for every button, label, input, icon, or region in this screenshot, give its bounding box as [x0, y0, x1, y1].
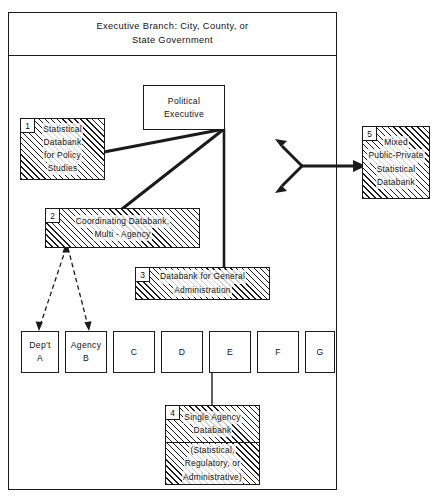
agency-g-label: G	[317, 346, 324, 359]
databank-4-line4: Regulatory, or	[184, 457, 241, 470]
databank-5-line1: Mixed	[383, 136, 409, 149]
databank-5-number: 5	[362, 126, 377, 141]
agency-box-a[interactable]: Dep't A	[21, 331, 59, 373]
databank-4-number: 4	[165, 405, 180, 420]
databank-4-label-bottom: (Statistical, Regulatory, or Administrat…	[166, 442, 259, 485]
databank-3-box[interactable]: 3 Databank for General Administration	[135, 267, 270, 300]
databank-4-line2: Databank	[193, 424, 233, 437]
databank-1-box[interactable]: 1 Statistical Databank for Policy Studie…	[20, 118, 105, 180]
political-executive-box[interactable]: Political Executive	[143, 85, 225, 130]
databank-3-line1: Databank for General	[159, 270, 246, 283]
databank-1-line1: Statistical	[42, 123, 83, 136]
databank-2-number: 2	[45, 208, 60, 223]
agency-c-label: C	[131, 346, 138, 359]
databank-1-line2: Databank	[43, 136, 83, 149]
databank-4-line3: (Statistical,	[189, 444, 235, 457]
databank-2-line1: Coordinating Databank,	[75, 215, 171, 228]
agency-b-line1: Agency	[71, 339, 101, 352]
databank-2-label: Coordinating Databank, Multi - Agency	[46, 209, 199, 247]
databank-2-box[interactable]: 2 Coordinating Databank, Multi - Agency	[45, 208, 200, 248]
agency-box-c[interactable]: C	[113, 331, 155, 373]
agency-box-f[interactable]: F	[257, 331, 299, 373]
databank-4-line1: Single Agency	[183, 411, 241, 424]
databank-1-line4: Studies	[47, 162, 79, 175]
databank-4-divider	[166, 442, 259, 443]
databank-1-number: 1	[20, 118, 35, 133]
agency-d-label: D	[179, 346, 186, 359]
databank-5-line4: Databank	[376, 176, 416, 189]
diagram-title: Executive Branch: City, County, or State…	[8, 12, 337, 56]
agency-a-line1: Dep't	[29, 339, 50, 352]
agency-e-label: E	[227, 346, 233, 359]
agency-a-line2: A	[29, 352, 50, 365]
diagram-canvas: Executive Branch: City, County, or State…	[0, 0, 439, 504]
databank-2-line2: Multi - Agency	[93, 228, 151, 241]
databank-5-box[interactable]: 5 Mixed Public-Private Statistical Datab…	[362, 126, 430, 199]
databank-4-box[interactable]: 4 Single Agency Databank (Statistical, R…	[165, 405, 260, 485]
databank-5-line3: Statistical	[376, 163, 417, 176]
agency-box-e[interactable]: E	[209, 331, 251, 373]
political-executive-line2: Executive	[164, 108, 204, 121]
databank-5-line2: Public-Private	[367, 149, 424, 162]
agency-b-line2: B	[71, 352, 101, 365]
agency-box-d[interactable]: D	[161, 331, 203, 373]
agency-box-b[interactable]: Agency B	[65, 331, 107, 373]
databank-3-line2: Administration	[173, 284, 232, 297]
databank-1-line3: for Policy	[43, 149, 82, 162]
agency-box-g[interactable]: G	[305, 331, 335, 373]
political-executive-line1: Political	[164, 95, 204, 108]
diagram-title-line2: State Government	[96, 34, 248, 47]
databank-4-line5: Administrative)	[182, 471, 243, 484]
agency-f-label: F	[275, 346, 281, 359]
databank-3-number: 3	[135, 267, 150, 282]
databank-3-label: Databank for General Administration	[136, 268, 269, 299]
diagram-title-line1: Executive Branch: City, County, or	[96, 20, 248, 33]
